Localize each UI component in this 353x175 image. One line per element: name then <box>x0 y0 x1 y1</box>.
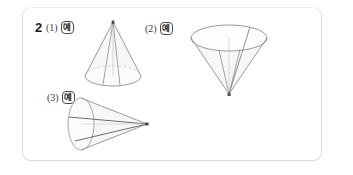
cone-apex-point <box>228 92 231 96</box>
cone-inverted-icon <box>183 16 275 102</box>
answer-label-1: 2 (1) 예 <box>35 21 74 34</box>
cone-apex-point <box>112 20 115 24</box>
sub-label-1: (1) <box>46 23 58 33</box>
answer-label-2: (2) 예 <box>145 22 173 35</box>
cone-inverted-figure <box>183 16 275 102</box>
answer-panel: 2 (1) 예 <box>22 7 322 161</box>
cone-upright-icon <box>73 14 153 94</box>
answer-badge-2: 예 <box>160 22 173 35</box>
cone-upright-figure <box>73 14 153 94</box>
question-number: 2 <box>35 21 42 34</box>
answer-panel-content: 2 (1) 예 <box>23 8 321 160</box>
cone-apex-point <box>145 123 149 126</box>
cone-sideways-figure <box>61 84 161 160</box>
answer-badge-1: 예 <box>61 21 74 34</box>
sub-label-2: (2) <box>145 24 157 34</box>
cone-sideways-icon <box>61 84 161 160</box>
sub-label-3: (3) <box>47 93 59 103</box>
